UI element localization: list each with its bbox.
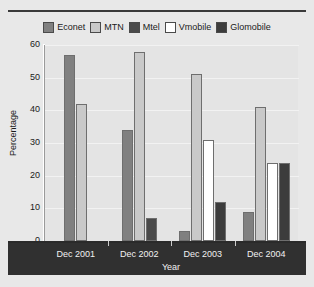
x-tick-mark xyxy=(235,241,236,246)
top-divider xyxy=(8,10,306,12)
x-tick-mark xyxy=(171,241,172,246)
y-tick-label: 50 xyxy=(20,73,40,82)
y-tick-label: 10 xyxy=(20,203,40,212)
bar[interactable] xyxy=(215,202,226,241)
x-axis-title: Year xyxy=(44,262,298,272)
bar-group xyxy=(171,45,235,241)
y-tick-label: 20 xyxy=(20,171,40,180)
bar[interactable] xyxy=(146,218,157,241)
legend-item-vmobile[interactable]: Vmobile xyxy=(165,22,212,33)
bar[interactable] xyxy=(76,104,87,241)
legend-item-mtn[interactable]: MTN xyxy=(90,22,124,33)
legend-label-vmobile: Vmobile xyxy=(179,22,212,33)
bar[interactable] xyxy=(255,107,266,241)
bar[interactable] xyxy=(267,163,278,241)
bar[interactable] xyxy=(191,74,202,241)
x-tick-label: Dec 2001 xyxy=(44,248,108,262)
bars-layer xyxy=(44,45,298,241)
legend-label-glomobile: Glomobile xyxy=(230,22,271,33)
bar[interactable] xyxy=(203,140,214,241)
chart-container: Econet MTN Mtel Vmobile Glomobile 010203… xyxy=(0,0,314,287)
x-axis-tick-labels: Dec 2001 Dec 2002 Dec 2003 Dec 2004 xyxy=(44,248,298,262)
legend-item-econet[interactable]: Econet xyxy=(43,22,85,33)
x-tick-label: Dec 2004 xyxy=(235,248,299,262)
legend-swatch-vmobile xyxy=(165,22,176,33)
bar[interactable] xyxy=(134,52,145,241)
legend-swatch-glomobile xyxy=(216,22,227,33)
bar[interactable] xyxy=(279,163,290,241)
y-tick-label: 60 xyxy=(20,40,40,49)
plot-wrapper xyxy=(44,45,298,241)
y-tick-label: 30 xyxy=(20,138,40,147)
legend-label-mtn: MTN xyxy=(104,22,124,33)
bar[interactable] xyxy=(122,130,133,241)
x-axis-line xyxy=(8,241,306,243)
legend-swatch-mtel xyxy=(129,22,140,33)
x-tick-label: Dec 2003 xyxy=(171,248,235,262)
bar-group xyxy=(44,45,108,241)
y-tick-label: 40 xyxy=(20,105,40,114)
legend-swatch-econet xyxy=(43,22,54,33)
chart-legend: Econet MTN Mtel Vmobile Glomobile xyxy=(0,17,314,37)
bar[interactable] xyxy=(179,231,190,241)
y-axis-title: Percentage xyxy=(8,78,18,188)
bar-group xyxy=(108,45,172,241)
legend-item-mtel[interactable]: Mtel xyxy=(129,22,160,33)
x-tick-label: Dec 2002 xyxy=(108,248,172,262)
bar[interactable] xyxy=(243,212,254,241)
legend-item-glomobile[interactable]: Glomobile xyxy=(216,22,271,33)
legend-label-econet: Econet xyxy=(57,22,85,33)
x-tick-mark xyxy=(108,241,109,246)
bar-group xyxy=(235,45,299,241)
bar[interactable] xyxy=(64,55,75,241)
legend-swatch-mtn xyxy=(90,22,101,33)
legend-label-mtel: Mtel xyxy=(143,22,160,33)
